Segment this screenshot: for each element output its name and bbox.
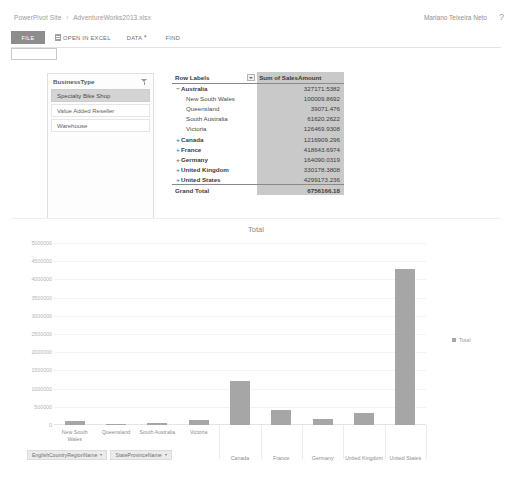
y-tick-label: 3000000: [14, 313, 52, 319]
category-separator: [219, 425, 220, 459]
pivot-grand-total-row: Grand Total 6756166.18: [172, 185, 344, 195]
chevron-down-icon: ▾: [165, 453, 167, 457]
slicer-item-specialty-bike-shop[interactable]: Specialty Bike Shop: [51, 89, 150, 102]
table-row[interactable]: −Australia 327171.5382: [172, 83, 344, 93]
bar[interactable]: [271, 410, 291, 425]
row-label: Victoria: [186, 125, 207, 132]
bar[interactable]: [106, 424, 126, 425]
bar-slot: [137, 243, 178, 425]
slicer-item-label: Warehouse: [57, 123, 87, 129]
pivot-chart: Total 0 500000 1000000 1500000 2000000 2…: [12, 218, 500, 470]
pivot-header-sum-salesamount[interactable]: Sum of SalesAmount: [257, 72, 344, 83]
x-tick-label: South Australia: [137, 429, 178, 436]
data-menu-label: DATA: [127, 35, 143, 41]
slicer-header: BusinessType: [48, 74, 153, 89]
table-row[interactable]: +France 418643.6974: [172, 144, 344, 154]
bar[interactable]: [354, 413, 374, 425]
row-value: 327171.5382: [257, 83, 344, 93]
row-label: United States: [181, 176, 221, 183]
tab-file[interactable]: FILE: [11, 31, 45, 44]
row-label: Germany: [181, 156, 208, 163]
slicer-title: BusinessType: [53, 78, 95, 85]
category-separator: [426, 425, 427, 459]
chart-legend: Total: [452, 337, 471, 343]
grand-total-value: 6756166.18: [257, 185, 344, 195]
pivot-header-row-labels-text: Row Labels: [175, 74, 209, 81]
row-value: 1216909.296: [257, 134, 344, 144]
breadcrumb: PowerPivot Site › AdventureWorks2013.xls…: [14, 14, 151, 21]
user-name[interactable]: Mariano Teixeira Neto: [424, 14, 487, 21]
bar[interactable]: [65, 421, 85, 425]
table-row[interactable]: Queensland 39071.476: [172, 103, 344, 113]
bar-series-total: [54, 243, 426, 425]
field-button-englishcountryregionname[interactable]: EnglishCountryRegionName ▾: [27, 450, 107, 460]
y-tick-label: 0: [14, 422, 52, 428]
table-row[interactable]: +Canada 1216909.296: [172, 134, 344, 144]
row-label: Australia: [181, 85, 207, 92]
row-label: Queensland: [186, 105, 219, 112]
slicer-item-label: Value Added Reseller: [57, 108, 114, 114]
y-tick-label: 4000000: [14, 276, 52, 282]
y-axis: 0 500000 1000000 1500000 2000000 2500000…: [12, 243, 52, 425]
bar-slot: [54, 243, 95, 425]
chart-field-buttons: EnglishCountryRegionName ▾ StateProvince…: [27, 450, 172, 460]
row-value: 61620.2622: [257, 114, 344, 124]
slicer-businesstype: BusinessType Specialty Bike Shop Value A…: [47, 73, 154, 219]
legend-swatch: [452, 338, 456, 342]
filter-clear-icon[interactable]: [141, 78, 148, 85]
user-area: Mariano Teixeira Neto ?: [424, 12, 504, 22]
find-button[interactable]: FIND: [166, 35, 181, 41]
bar[interactable]: [230, 381, 250, 425]
ribbon-toolbar: FILE OPEN IN EXCEL DATA ▾ FIND: [0, 30, 512, 45]
y-tick-label: 3500000: [14, 295, 52, 301]
find-label: FIND: [166, 35, 181, 41]
bar[interactable]: [147, 423, 167, 425]
breadcrumb-file[interactable]: AdventureWorks2013.xlsx: [73, 14, 151, 21]
y-tick-label: 4500000: [14, 258, 52, 264]
y-tick-label: 2500000: [14, 331, 52, 337]
row-value: 418643.6974: [257, 144, 344, 154]
field-button-stateprovincename[interactable]: StateProvinceName ▾: [110, 450, 171, 460]
bar-slot: [261, 243, 302, 425]
pivot-header-row: Row Labels Sum of SalesAmount: [172, 72, 344, 83]
grand-total-label: Grand Total: [172, 185, 257, 195]
field-button-label: EnglishCountryRegionName: [32, 452, 97, 458]
bar-slot: [219, 243, 260, 425]
chevron-down-icon: ▾: [144, 35, 147, 40]
row-label: United Kingdom: [181, 166, 229, 173]
table-row[interactable]: +United States 4299173.236: [172, 175, 344, 185]
x-tick-label: New South Wales: [54, 429, 95, 443]
bar[interactable]: [313, 419, 333, 425]
category-separator: [261, 425, 262, 459]
row-label: South Australia: [186, 115, 228, 122]
plot-area: New South Wales Queensland South Austral…: [54, 243, 426, 425]
bar-slot: [95, 243, 136, 425]
row-value: 39071.476: [257, 103, 344, 113]
slicer-list: Specialty Bike Shop Value Added Reseller…: [48, 89, 153, 132]
bar[interactable]: [189, 420, 209, 425]
slicer-item-value-added-reseller[interactable]: Value Added Reseller: [51, 104, 150, 117]
question-mark-icon[interactable]: ?: [499, 12, 504, 22]
open-in-excel-button[interactable]: OPEN IN EXCEL: [55, 34, 111, 41]
table-row[interactable]: +Germany 164090.0319: [172, 154, 344, 164]
table-row[interactable]: +United Kingdom 330178.3808: [172, 165, 344, 175]
pivot-table: Row Labels Sum of SalesAmount −Australia…: [172, 72, 344, 195]
row-label: New South Wales: [186, 95, 235, 102]
name-box-input[interactable]: [11, 48, 57, 60]
bar-slot: [302, 243, 343, 425]
bar-slot: [178, 243, 219, 425]
breadcrumb-site[interactable]: PowerPivot Site: [14, 14, 61, 21]
breadcrumb-separator: ›: [66, 14, 68, 21]
data-menu-button[interactable]: DATA ▾: [127, 35, 148, 41]
bar[interactable]: [395, 269, 415, 425]
excel-icon: [55, 34, 61, 41]
pivot-header-row-labels[interactable]: Row Labels: [172, 72, 257, 83]
table-row[interactable]: New South Wales 100009.8692: [172, 93, 344, 103]
slicer-item-warehouse[interactable]: Warehouse: [51, 119, 150, 132]
table-row[interactable]: South Australia 61620.2622: [172, 114, 344, 124]
category-separator: [302, 425, 303, 459]
chevron-down-icon[interactable]: [247, 74, 255, 81]
table-row[interactable]: Victoria 126469.9308: [172, 124, 344, 134]
chart-title: Total: [12, 225, 500, 234]
row-value: 100009.8692: [257, 93, 344, 103]
